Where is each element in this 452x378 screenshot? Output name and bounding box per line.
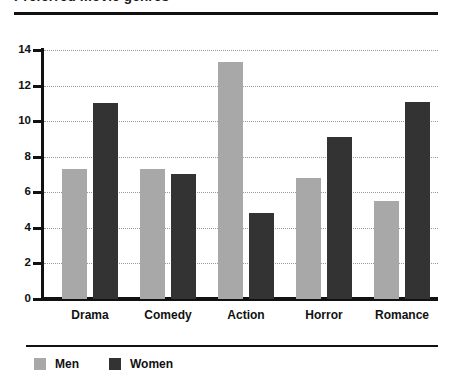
bar-group xyxy=(218,50,274,299)
y-axis-tick xyxy=(33,49,42,52)
y-axis-tick-label: 12 xyxy=(5,79,31,91)
x-axis-label-comedy: Comedy xyxy=(123,308,213,322)
bar-comedy-men[interactable] xyxy=(140,169,165,299)
legend-item-men[interactable]: Men xyxy=(34,357,79,371)
legend-divider xyxy=(26,345,438,347)
bar-group xyxy=(374,50,430,299)
y-axis-tick-label: 4 xyxy=(5,221,31,233)
x-axis-label-horror: Horror xyxy=(279,308,369,322)
bar-action-women[interactable] xyxy=(249,213,274,299)
page-title: Preferred movie genres xyxy=(14,0,169,4)
y-axis-tick xyxy=(33,156,42,159)
legend-label-women: Women xyxy=(130,357,173,371)
y-axis-tick-label: 0 xyxy=(5,292,31,304)
legend-label-men: Men xyxy=(55,357,79,371)
bars-container xyxy=(44,50,438,299)
y-axis-tick-label: 2 xyxy=(5,256,31,268)
y-axis-tick xyxy=(33,298,42,301)
legend-item-women[interactable]: Women xyxy=(109,357,173,371)
y-axis-tick xyxy=(33,262,42,265)
bar-group xyxy=(140,50,196,299)
bar-romance-men[interactable] xyxy=(374,201,399,299)
y-axis-tick-label: 10 xyxy=(5,114,31,126)
bar-group xyxy=(62,50,118,299)
y-axis-tick xyxy=(33,120,42,123)
y-axis-tick xyxy=(33,227,42,230)
y-axis-tick-label: 6 xyxy=(5,185,31,197)
bar-romance-women[interactable] xyxy=(405,102,430,299)
bar-horror-men[interactable] xyxy=(296,178,321,299)
bar-horror-women[interactable] xyxy=(327,137,352,299)
plot-area xyxy=(44,50,438,299)
title-divider xyxy=(14,12,438,15)
x-axis-label-drama: Drama xyxy=(45,308,135,322)
x-axis-label-romance: Romance xyxy=(357,308,447,322)
y-axis-tick-label: 14 xyxy=(5,43,31,55)
bar-comedy-women[interactable] xyxy=(171,174,196,299)
y-axis-tick-label: 8 xyxy=(5,150,31,162)
bar-drama-women[interactable] xyxy=(93,103,118,299)
y-axis-tick xyxy=(33,191,42,194)
x-axis-label-action: Action xyxy=(201,308,291,322)
legend-swatch-women xyxy=(109,358,121,370)
bar-action-men[interactable] xyxy=(218,62,243,299)
chart-legend: MenWomen xyxy=(34,357,173,371)
y-axis-tick xyxy=(33,85,42,88)
bar-group xyxy=(296,50,352,299)
legend-swatch-men xyxy=(34,358,46,370)
bar-drama-men[interactable] xyxy=(62,169,87,299)
